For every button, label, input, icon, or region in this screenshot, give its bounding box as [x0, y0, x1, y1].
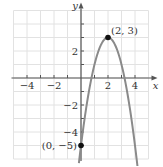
- point-label: (2, 3): [111, 25, 138, 36]
- x-tick-label: 4: [132, 80, 138, 91]
- point-marker: [105, 35, 111, 41]
- x-tick-label: −2: [47, 80, 62, 91]
- parabola-curve: [79, 38, 140, 167]
- point-marker: [78, 143, 84, 149]
- x-tick-label: −4: [20, 80, 35, 91]
- y-axis-label: y: [71, 0, 78, 11]
- point-label: (0, −5): [42, 140, 77, 151]
- x-tick-label: 2: [105, 80, 111, 91]
- y-tick-label: −2: [63, 100, 78, 111]
- x-axis-label: x: [153, 80, 159, 91]
- y-tick-label: 2: [72, 46, 78, 57]
- y-axis-arrow-icon: [79, 3, 84, 9]
- parabola-graph: (2, 3)(0, −5) −4−2242−2−4xy: [0, 0, 163, 166]
- y-tick-label: −4: [63, 127, 78, 138]
